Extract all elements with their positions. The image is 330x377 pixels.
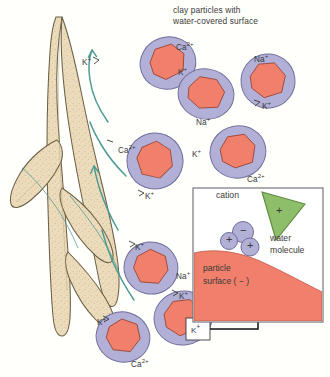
ion-label-na-top-right: Na+ <box>254 55 268 64</box>
water-positive-sign-1: + <box>226 234 232 246</box>
water-positive-sign-2: + <box>247 240 253 252</box>
ion-label-k-upper-left: K+ <box>82 58 91 67</box>
ion-label-k-lower-center: K+ <box>135 243 144 252</box>
diagram-canvas <box>0 0 330 377</box>
plant-root-illustration <box>10 17 120 336</box>
ion-label-ca-top: Ca2+ <box>176 43 194 52</box>
inset-water-label-line2: molecule <box>270 245 304 257</box>
cation-plus-sign: + <box>276 205 282 217</box>
ion-label-ca-left-mid: Ca2+ <box>118 146 136 155</box>
ion-label-k-right-mid: K+ <box>262 102 271 111</box>
figure-title-line1: clay particles with <box>173 5 241 16</box>
water-negative-sign: − <box>240 225 246 237</box>
callout-boxed-ion-label: K+ <box>191 323 200 335</box>
ion-label-na-mid: Na+ <box>196 118 210 127</box>
ion-label-k-mid-center: K+ <box>192 150 201 159</box>
ion-label-k-lower-left: K+ <box>145 192 154 201</box>
inset-surface-label-line1: particle <box>203 263 231 275</box>
ion-label-k-bottom-left: K+ <box>97 318 106 327</box>
inset-water-label-line1: water <box>270 233 291 245</box>
figure-title-line2: water-covered surface <box>173 16 258 27</box>
ion-label-k-lower-right: K+ <box>179 292 188 301</box>
inset-cation-label: cation <box>216 190 239 202</box>
ion-label-k-center-upper: K+ <box>178 68 187 77</box>
inset-surface-label-line2: surface ( − ) <box>203 276 249 288</box>
ion-label-ca-right-mid: Ca2+ <box>247 175 265 184</box>
clay-particle <box>119 125 192 198</box>
ion-label-ca-bottom: Ca2+ <box>131 360 149 369</box>
ion-label-na-lower: Na+ <box>176 272 190 281</box>
clay-particle-ion-exchange-diagram: clay particles with water-covered surfac… <box>0 0 330 377</box>
